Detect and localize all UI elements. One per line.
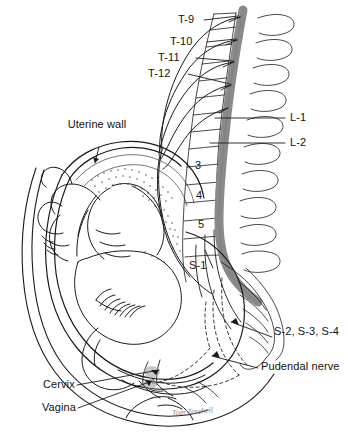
label-pudendal-nerve: Pudendal nerve — [261, 360, 339, 372]
label-vertebra-5: 5 — [198, 218, 204, 230]
label-vagina: Vagina — [42, 401, 76, 413]
label-t10: T-10 — [170, 35, 192, 47]
label-vertebra-3: 3 — [195, 159, 201, 171]
anatomy-figure: T-9 T-10 T-11 T-12 L-1 L-2 3 4 5 S-1 S-2… — [0, 0, 348, 438]
label-cervix: Cervix — [43, 378, 75, 390]
label-uterine-wall: Uterine wall — [62, 118, 132, 131]
label-t12: T-12 — [148, 67, 170, 79]
label-l1: L-1 — [290, 111, 306, 123]
label-vertebra-4: 4 — [196, 189, 202, 201]
label-t11: T-11 — [158, 51, 180, 63]
anatomy-illustration — [0, 0, 348, 438]
label-t9: T-9 — [178, 13, 194, 25]
label-l2: L-2 — [290, 136, 306, 148]
label-s1: S-1 — [189, 259, 206, 271]
figure-background — [0, 0, 348, 438]
label-s2-s3-s4: S-2, S-3, S-4 — [274, 325, 339, 337]
